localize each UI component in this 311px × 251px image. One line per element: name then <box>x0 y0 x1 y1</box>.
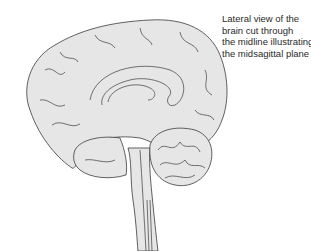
brain-diagram: Lateral view of the brain cut through th… <box>0 0 311 251</box>
caption-line: the midline illustrating <box>222 36 311 48</box>
caption-line: Lateral view of the <box>222 13 311 25</box>
temporal-lobe-shape <box>74 137 127 178</box>
caption-line: the midsagittal plane <box>222 48 311 60</box>
caption-line: brain cut through <box>222 25 311 37</box>
caption: Lateral view of the brain cut through th… <box>222 13 311 59</box>
